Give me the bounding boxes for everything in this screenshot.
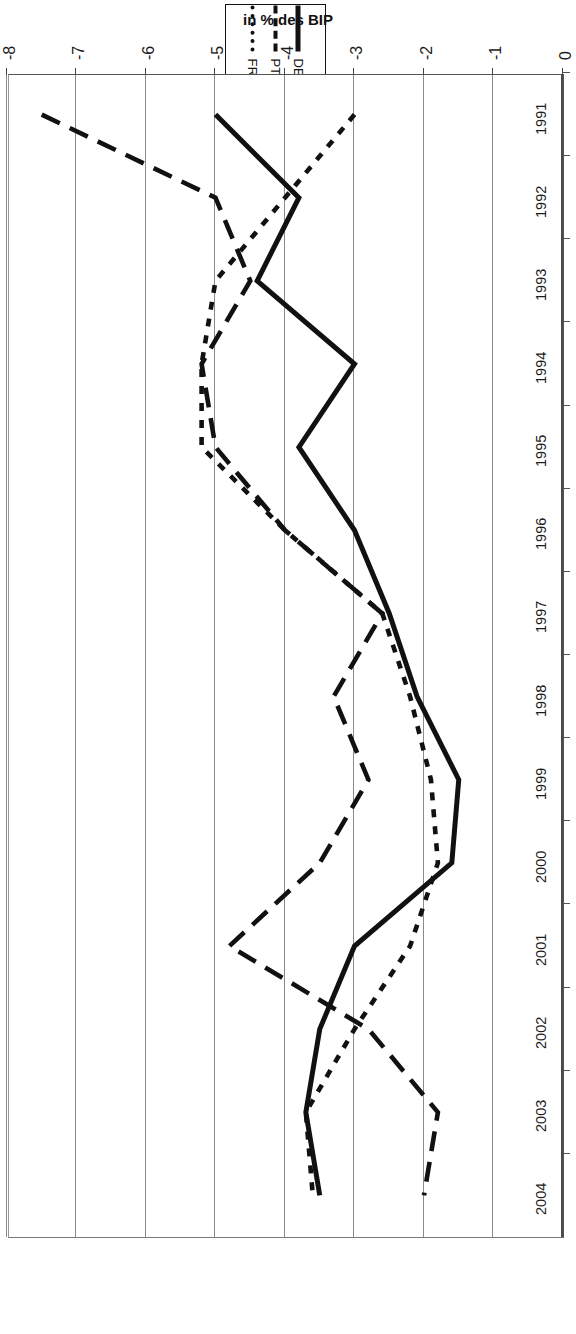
chart-figure: DE PT FR 1991199219931994199519961997199… xyxy=(0,0,576,1334)
rotated-figure: DE PT FR 1991199219931994199519961997199… xyxy=(0,0,576,1334)
category-label: 1995 xyxy=(533,435,549,467)
value-tick-label: -7 xyxy=(71,46,89,60)
category-label: 1993 xyxy=(533,269,549,301)
category-label: 2004 xyxy=(533,1183,549,1215)
category-tick-mark xyxy=(563,820,570,821)
category-tick-mark xyxy=(563,571,570,572)
category-tick-mark xyxy=(563,238,570,239)
category-tick-mark xyxy=(563,903,570,904)
series-line-de xyxy=(216,115,459,1196)
value-axis-title: in % des BIP xyxy=(0,11,576,28)
value-tick-label: -8 xyxy=(1,46,19,60)
plot-area: 1991199219931994199519961997199819992000… xyxy=(8,74,564,1238)
category-tick-mark xyxy=(563,1153,570,1154)
category-tick-mark xyxy=(563,737,570,738)
category-tick-mark xyxy=(563,654,570,655)
category-label: 1996 xyxy=(533,518,549,550)
value-tick-label: 0 xyxy=(557,51,575,60)
category-tick-mark xyxy=(563,321,570,322)
category-label: 2001 xyxy=(533,934,549,966)
category-label: 1992 xyxy=(533,185,549,217)
category-label: 1998 xyxy=(533,684,549,716)
value-tick-label: -2 xyxy=(418,46,436,60)
category-tick-mark xyxy=(563,1070,570,1071)
value-tick-label: -1 xyxy=(488,46,506,60)
category-label: 1994 xyxy=(533,352,549,384)
value-tick-label: -5 xyxy=(210,46,228,60)
series-lines xyxy=(7,73,563,1237)
category-label: 2003 xyxy=(533,1100,549,1132)
series-line-pt xyxy=(42,115,438,1196)
category-tick-mark xyxy=(563,155,570,156)
category-label: 1991 xyxy=(533,102,549,134)
value-tick-label: -4 xyxy=(279,46,297,60)
category-tick-mark xyxy=(563,72,570,73)
category-tick-mark xyxy=(563,405,570,406)
category-tick-mark xyxy=(563,987,570,988)
category-label: 2002 xyxy=(533,1017,549,1049)
category-label: 1999 xyxy=(533,767,549,799)
category-label: 1997 xyxy=(533,601,549,633)
category-label: 2000 xyxy=(533,851,549,883)
value-tick-label: -6 xyxy=(140,46,158,60)
category-tick-mark xyxy=(563,488,570,489)
value-tick-label: -3 xyxy=(349,46,367,60)
